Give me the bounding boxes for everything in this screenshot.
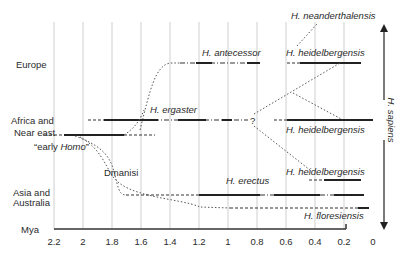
tick-1.2: 1.2 (192, 236, 205, 247)
tick-0: 0 (370, 236, 375, 247)
tick-2.2: 2.2 (47, 236, 60, 247)
tick-1.4: 1.4 (163, 236, 176, 247)
tick-1.6: 1.6 (134, 236, 147, 247)
tick-1.8: 1.8 (105, 236, 118, 247)
arrow-down-icon (380, 222, 388, 230)
tick-0.4: 0.4 (308, 236, 321, 247)
x-axis: Mya 2.2 2 1.8 1.6 1.4 1.2 1 0.8 0.6 0.4 … (21, 224, 376, 247)
label-early-homo: “early Homo” (34, 141, 89, 152)
human-evolution-diagram: Mya 2.2 2 1.8 1.6 1.4 1.2 1 0.8 0.6 0.4 … (0, 0, 401, 257)
tick-1: 1 (225, 236, 230, 247)
label-antecessor: H. antecessor (202, 47, 261, 58)
label-erectus: H. erectus (226, 175, 270, 186)
label-ergaster: H. ergaster (150, 104, 198, 115)
arrow-up-icon (380, 24, 388, 32)
tick-0.6: 0.6 (279, 236, 292, 247)
label-dmanisi: Dmanisi (104, 167, 138, 178)
label-heidelbergensis-europe: H. heidelbergensis (286, 47, 365, 58)
tick-0.8: 0.8 (250, 236, 263, 247)
label-floresiensis: H. floresiensis (304, 210, 364, 221)
label-heidelbergensis-africa: H. heidelbergensis (286, 124, 365, 135)
region-africa-2: Near east (14, 127, 56, 138)
region-asia-2: Australia (13, 197, 51, 208)
region-europe: Europe (16, 59, 47, 70)
africa-lineages (44, 63, 373, 170)
species-labels: H. neanderthalensis H. antecessor H. hei… (34, 10, 376, 221)
sapiens-arrow: H. sapiens (380, 24, 397, 230)
region-africa-1: Africa and (11, 115, 54, 126)
label-question-mark: ? (250, 115, 255, 126)
axis-unit-label: Mya (21, 224, 40, 235)
tick-0.2: 0.2 (337, 236, 350, 247)
label-sapiens: H. sapiens (386, 98, 397, 143)
label-heidelbergensis-asia: H. heidelbergensis (286, 166, 365, 177)
region-labels: Europe Africa and Near east Asia and Aus… (11, 59, 56, 208)
label-neanderthalensis: H. neanderthalensis (291, 10, 376, 21)
tick-2: 2 (80, 236, 85, 247)
